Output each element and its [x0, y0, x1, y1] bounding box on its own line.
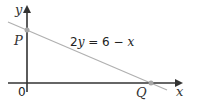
origin-label: 0	[18, 85, 26, 99]
point-q-label: Q	[136, 85, 147, 100]
point-p-label: P	[13, 33, 23, 48]
line-equation-label: 2y = 6 − x	[70, 35, 134, 49]
point-q-marker	[149, 81, 154, 86]
line-graph	[8, 22, 167, 90]
y-axis-label: y	[14, 2, 23, 17]
graph-diagram: y x 0 P Q 2y = 6 − x	[0, 0, 197, 105]
point-p-marker	[25, 28, 30, 33]
x-axis-label: x	[176, 84, 184, 99]
